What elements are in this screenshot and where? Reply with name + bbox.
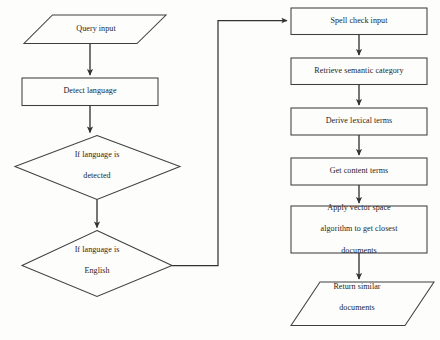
shape-if-language-english: [22, 231, 172, 297]
shape-get-content-terms: [291, 158, 427, 185]
shape-query-input: [24, 15, 166, 44]
flowchart-canvas: [0, 0, 440, 340]
shape-return-similar-documents: [291, 282, 434, 326]
shape-apply-vector-space: [291, 206, 427, 253]
shape-retrieve-semantic-category: [291, 58, 427, 85]
shape-derive-lexical-terms: [291, 108, 427, 135]
edge-langenglish-to-spell-check: [172, 21, 287, 266]
shape-if-language-detected: [15, 136, 180, 200]
shape-detect-language: [22, 78, 158, 106]
flowchart-diagram: Query input Detect language If language …: [0, 0, 440, 340]
shape-spell-check-input: [291, 8, 427, 35]
